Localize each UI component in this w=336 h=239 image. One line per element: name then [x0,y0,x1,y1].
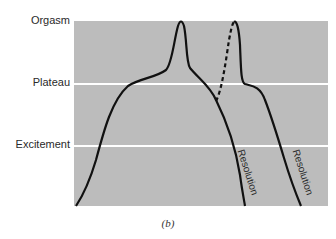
first-response-curve [76,22,245,207]
dashed-return-curve [216,22,234,101]
figure-caption: (b) [0,217,336,229]
response-curves [0,0,336,239]
